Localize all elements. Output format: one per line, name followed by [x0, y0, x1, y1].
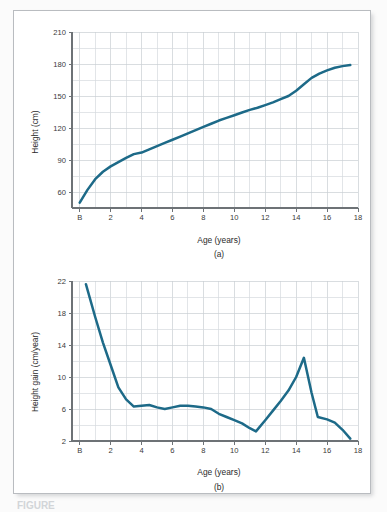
chart-panel-a: B246810121416186090120150180210 Age (yea… — [14, 12, 370, 259]
y-tick-label: 210 — [53, 28, 66, 37]
figure-sheet: B246810121416186090120150180210 Age (yea… — [0, 0, 387, 512]
y-tick-label: 150 — [53, 92, 66, 101]
x-tick-label: 6 — [170, 446, 174, 455]
y-tick-label: 180 — [53, 60, 66, 69]
figure-caption: FIGURE — [17, 500, 137, 512]
x-tick-label: 6 — [170, 213, 174, 222]
x-tick-label: 8 — [201, 213, 205, 222]
x-tick-label: 10 — [230, 213, 238, 222]
y-tick-label: 18 — [58, 309, 66, 318]
x-tick-label: 4 — [139, 446, 143, 455]
chart-a-grid — [72, 32, 358, 208]
x-tick-label: 16 — [323, 213, 331, 222]
x-tick-label: 18 — [354, 213, 362, 222]
x-tick-label: 2 — [109, 446, 113, 455]
x-tick-label: 12 — [261, 213, 269, 222]
x-tick-label: 12 — [261, 446, 269, 455]
chart-b-grid — [72, 281, 358, 441]
figure-frame: B246810121416186090120150180210 Age (yea… — [13, 10, 371, 494]
chart-b-xlabel: Age (years) — [197, 467, 240, 477]
chart-b-axes — [69, 281, 359, 445]
chart-a-ylabel: Height (cm) — [30, 110, 40, 153]
x-tick-label: 10 — [230, 446, 238, 455]
x-tick-label: 2 — [109, 213, 113, 222]
y-tick-label: 120 — [53, 124, 66, 133]
x-tick-label: 14 — [292, 446, 300, 455]
y-tick-label: 10 — [58, 373, 66, 382]
y-tick-label: 6 — [62, 405, 66, 414]
figure-caption-text: FIGURE — [17, 500, 137, 512]
y-tick-label: 60 — [58, 188, 66, 197]
chart-a-xlabel: Age (years) — [197, 235, 240, 245]
chart-a-panel-letter: (a) — [214, 249, 224, 259]
y-tick-label: 14 — [58, 341, 66, 350]
chart-b-ylabel: Height gain (cm/year) — [30, 332, 40, 412]
y-tick-label: 90 — [58, 156, 66, 165]
y-tick-label: 22 — [58, 277, 66, 286]
height-gain-curve — [86, 284, 350, 438]
x-tick-label: 16 — [323, 446, 331, 455]
x-tick-label: B — [77, 213, 82, 222]
height-curve — [80, 65, 351, 203]
chart-panel-b: B246810121416182610141822 Age (years) He… — [14, 259, 370, 494]
x-tick-label: 14 — [292, 213, 300, 222]
x-tick-label: 18 — [354, 446, 362, 455]
height-chart: B246810121416186090120150180210 Age (yea… — [14, 12, 370, 259]
x-tick-label: 8 — [201, 446, 205, 455]
chart-b-ticklabels: B246810121416182610141822 — [58, 277, 363, 455]
chart-b-panel-letter: (b) — [214, 482, 224, 492]
x-tick-label: B — [77, 446, 82, 455]
height-gain-chart: B246810121416182610141822 Age (years) He… — [14, 259, 370, 494]
y-tick-label: 2 — [62, 437, 66, 446]
x-tick-label: 4 — [139, 213, 143, 222]
